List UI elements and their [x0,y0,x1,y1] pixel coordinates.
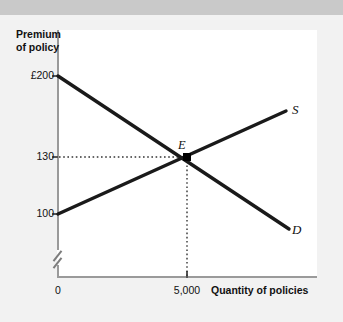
y-tick-label-200: £200 [31,69,54,81]
y-tick-label-130: 130 [36,150,54,162]
equilibrium-point-label: E [178,138,186,153]
y-axis-title-line-2: of policy [16,41,59,53]
x-axis-title: Quantity of policies [211,284,308,296]
demand-curve [58,76,289,229]
y-axis-title-line-1: Premium [16,28,61,40]
equilibrium-point-marker [183,153,191,161]
y-axis-title: Premiumof policy [16,28,60,53]
x-tick-label-0: 0 [45,284,71,296]
x-tick-label-5000: 5,000 [165,284,209,296]
y-tick-label-100: 100 [36,207,54,219]
supply-demand-chart-figure: Premiumof policy Quantity of policies £2… [0,0,343,322]
demand-curve-label: D [292,222,301,238]
supply-curve [58,111,286,214]
supply-curve-label: S [292,102,299,118]
